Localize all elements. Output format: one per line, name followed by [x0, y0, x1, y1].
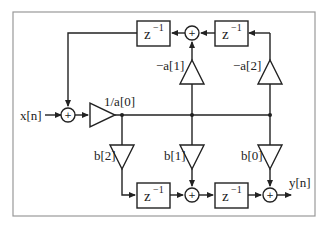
delay-bottom-left: z −1: [137, 183, 170, 208]
feedback-gain-a2-triangle: [258, 60, 282, 84]
feedforward-gain-b1-label: b[1]: [164, 148, 186, 163]
delay-bottom-right: z −1: [215, 183, 248, 208]
svg-text:−1: −1: [153, 22, 164, 33]
svg-text:+: +: [188, 190, 196, 200]
svg-text:−1: −1: [231, 184, 242, 195]
iir-filter-diagram: + 1/a[0] x[n] −a[2] z −1 + −a[1] z −1: [0, 0, 325, 227]
delay-top-right: z −1: [215, 21, 248, 46]
feedback-gain-a1-label: −a[1]: [156, 58, 184, 73]
output-label: y[n]: [289, 175, 311, 190]
input-sum-node: +: [61, 108, 75, 122]
svg-text:−1: −1: [231, 22, 242, 33]
feedforward-sum-node-1: +: [185, 188, 199, 202]
svg-text:z: z: [144, 26, 151, 42]
svg-text:z: z: [222, 26, 229, 42]
feedforward-gain-b2-label: b[2]: [94, 148, 116, 163]
input-label: x[n]: [20, 108, 42, 123]
feedback-gain-a2-label: −a[2]: [233, 58, 261, 73]
delay-top-left: z −1: [137, 21, 170, 46]
output-sum-node: +: [263, 188, 277, 202]
svg-text:z: z: [222, 188, 229, 204]
svg-text:+: +: [188, 28, 196, 38]
svg-text:+: +: [266, 190, 274, 200]
input-gain-label: 1/a[0]: [104, 94, 135, 109]
feedback-sum-node: +: [185, 26, 199, 40]
feedforward-gain-b0-label: b[0]: [241, 148, 263, 163]
svg-text:+: +: [64, 110, 72, 120]
svg-text:−1: −1: [153, 184, 164, 195]
svg-text:z: z: [144, 188, 151, 204]
